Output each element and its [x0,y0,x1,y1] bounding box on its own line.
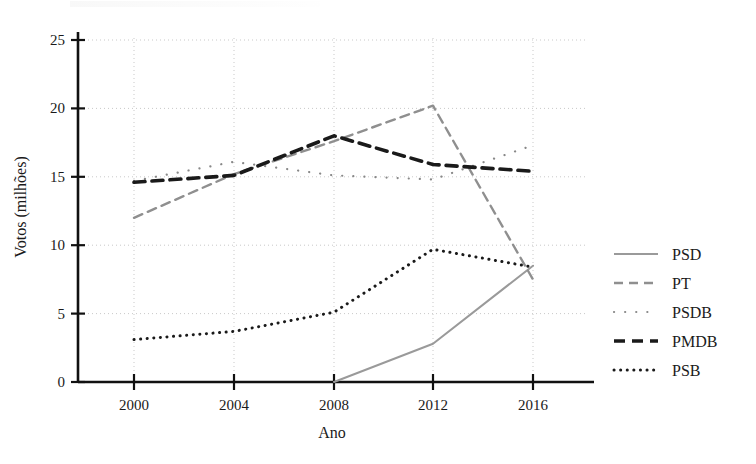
y-tick-label: 15 [50,169,65,185]
series-group [134,106,533,382]
x-tick-label: 2008 [319,397,349,413]
votes-by-year-line-chart: 051015202520002004200820122016AnoVotos (… [0,0,756,464]
legend: PSDPTPSDBPMDBPSB [614,246,717,379]
legend-label-pmdb: PMDB [672,333,717,350]
legend-label-psb: PSB [672,362,700,379]
x-tick-label: 2000 [119,397,149,413]
y-tick-label: 20 [50,100,65,116]
legend-label-pt: PT [672,275,691,292]
y-tick-label: 10 [50,237,65,253]
y-axis-ticks: 0510152025 [50,32,85,390]
y-axis-title: Votos (milhões) [12,156,30,257]
series-line-pt [134,106,533,280]
series-line-psd [334,266,533,382]
x-tick-label: 2012 [418,397,448,413]
x-tick-label: 2016 [518,397,549,413]
page-edge-artifact [70,1,320,7]
legend-label-psd: PSD [672,246,701,263]
y-tick-label: 5 [58,306,66,322]
y-tick-label: 0 [58,374,66,390]
axes [78,32,594,382]
x-tick-label: 2004 [219,397,250,413]
y-tick-label: 25 [50,32,65,48]
chart-figure: 051015202520002004200820122016AnoVotos (… [0,0,756,464]
x-axis-ticks: 20002004200820122016 [119,374,549,413]
x-axis-title: Ano [318,424,346,441]
legend-label-psdb: PSDB [672,304,712,321]
